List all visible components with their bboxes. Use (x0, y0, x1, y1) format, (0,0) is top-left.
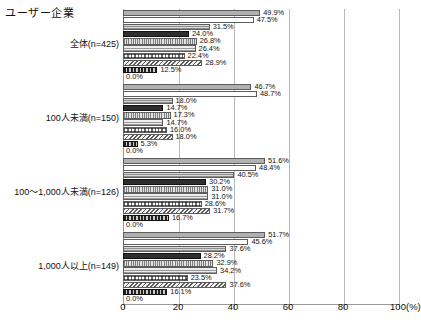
bar-row: 16.0% (123, 127, 398, 133)
bar (123, 31, 189, 37)
bar (123, 253, 201, 259)
bar-row: 37.6% (123, 282, 398, 288)
x-axis-label-0: 0 (120, 301, 125, 312)
category-label: 100人未満(n=150) (0, 114, 119, 123)
bar (123, 179, 206, 185)
bar-row: 31.0% (123, 186, 398, 192)
bar-value-label: 28.9% (205, 59, 226, 66)
bar-row: 14.7% (123, 105, 398, 111)
bar (123, 84, 251, 90)
bar-value-label: 48.7% (260, 90, 281, 97)
bar-value-label: 18.0% (176, 133, 197, 140)
bar (123, 53, 185, 59)
bar-value-label: 45.6% (251, 238, 272, 245)
bar-value-label: 47.5% (257, 16, 278, 23)
bar (123, 119, 163, 125)
bar-value-label: 40.5% (237, 172, 258, 179)
bar-row: 37.6% (123, 246, 398, 252)
bar (123, 186, 208, 192)
x-axis-label-80: 80 (338, 301, 349, 312)
bar-row: 0.0% (123, 296, 398, 302)
bar-row: 5.3% (123, 141, 398, 147)
bar-row: 32.9% (123, 260, 398, 266)
bar-row: 0.0% (123, 222, 398, 228)
bar-row: 28.6% (123, 201, 398, 207)
bar-row: 30.2% (123, 179, 398, 185)
bar (123, 201, 202, 207)
bar-row: 12.5% (123, 67, 398, 73)
bar-row: 40.5% (123, 172, 398, 178)
bar-row: 16.1% (123, 289, 398, 295)
bar-row: 28.2% (123, 253, 398, 259)
bar-value-label: 16.7% (172, 214, 193, 221)
bar (123, 127, 167, 133)
x-axis-label-40: 40 (228, 301, 239, 312)
x-axis-label-20: 20 (173, 301, 184, 312)
bar (123, 232, 265, 238)
bar-row: 48.4% (123, 165, 398, 171)
bar (123, 45, 196, 51)
bar-value-label: 12.5% (160, 66, 181, 73)
bar-value-label: 16.1% (170, 288, 191, 295)
bar (123, 165, 256, 171)
bar (123, 260, 213, 266)
category-label: 100〜1,000人未満(n=126) (0, 188, 119, 197)
bar-row: 48.7% (123, 91, 398, 97)
bar-value-label: 0.0% (126, 73, 143, 80)
bar-row: 31.0% (123, 193, 398, 199)
bar-row: 31.5% (123, 24, 398, 30)
bar-value-label: 0.0% (126, 221, 143, 228)
bar-row: 24.0% (123, 31, 398, 37)
bar-value-label: 34.2% (220, 267, 241, 274)
bar-row: 18.0% (123, 98, 398, 104)
bar-row: 18.0% (123, 134, 398, 140)
x-axis-label-60: 60 (283, 301, 294, 312)
bar-row: 0.0% (123, 148, 398, 154)
gridline-100 (399, 9, 400, 304)
bar-value-label: 0.0% (126, 295, 143, 302)
bar-row: 34.2% (123, 267, 398, 273)
bar-value-label: 37.6% (229, 246, 250, 253)
bar-value-label: 48.4% (259, 164, 280, 171)
bar-row: 26.4% (123, 45, 398, 51)
bar-row: 47.5% (123, 17, 398, 23)
bar-row: 45.6% (123, 239, 398, 245)
bar (123, 158, 265, 164)
bar-value-label: 5.3% (141, 140, 158, 147)
bar-row: 31.7% (123, 208, 398, 214)
bar-value-label: 37.6% (229, 281, 250, 288)
bar (123, 17, 254, 23)
bar-row: 17.3% (123, 112, 398, 118)
bar (123, 208, 210, 214)
bar-row: 22.4% (123, 53, 398, 59)
bar-row: 0.0% (123, 74, 398, 80)
category-label: 1,000人以上(n=149) (0, 262, 119, 271)
bar (123, 98, 173, 104)
bar (123, 193, 208, 199)
bar-row: 16.7% (123, 215, 398, 221)
bar (123, 112, 171, 118)
bar-row: 26.8% (123, 38, 398, 44)
bar-value-label: 23.5% (191, 274, 212, 281)
bar (123, 105, 163, 111)
bar-row: 14.7% (123, 119, 398, 125)
bar (123, 38, 197, 44)
bar-value-label: 31.5% (213, 24, 234, 31)
chart-title: ユーザー企業 (5, 4, 74, 20)
bar (123, 10, 260, 16)
x-axis-unit: (%) (406, 301, 421, 312)
x-axis-label-100: 100 (390, 301, 406, 312)
bar-value-label: 31.7% (213, 207, 234, 214)
bar-value-label: 0.0% (126, 147, 143, 154)
category-label: 全体(n=425) (0, 40, 119, 49)
bar-row: 23.5% (123, 275, 398, 281)
bar (123, 275, 188, 281)
